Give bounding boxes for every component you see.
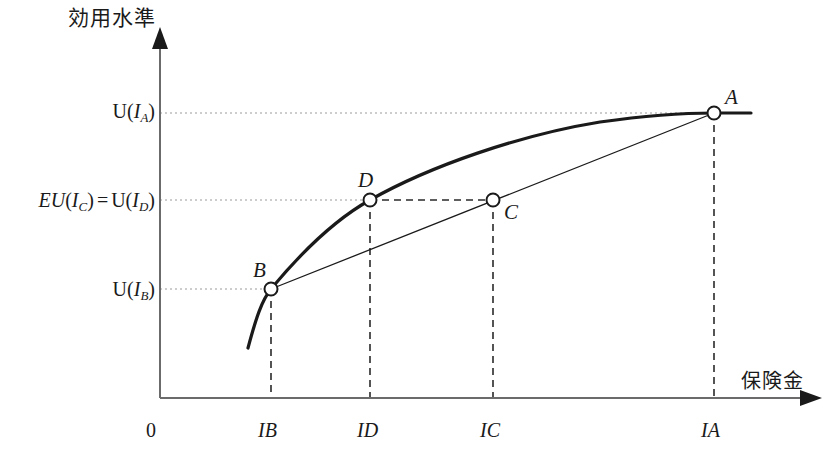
point-marker-b[interactable]: [265, 283, 278, 296]
diagram-canvas: [0, 0, 829, 461]
vertical-guide-lines: [271, 113, 714, 398]
x-axis-title: 保険金: [741, 371, 804, 391]
point-marker-a[interactable]: [708, 107, 721, 120]
y-axis-title: 効用水準: [68, 8, 156, 29]
y-tick-label-eu-ic: EU(IC)=U(ID): [0, 190, 155, 210]
y-tick-label-u-ia: U(IA): [0, 101, 155, 121]
axes: [152, 27, 822, 406]
point-markers: [265, 107, 721, 296]
point-label-a: A: [725, 87, 738, 108]
utility-curve: [248, 113, 751, 348]
horizontal-guide-lines: [160, 113, 714, 289]
utility-diagram-figure: 効用水準 保険金 U(IA) EU(IC)=U(ID) U(IB) 0 IB I…: [0, 0, 829, 461]
point-marker-d[interactable]: [364, 194, 377, 207]
y-tick-label-u-ib: U(IB): [0, 279, 155, 299]
point-label-d: D: [358, 170, 373, 191]
x-tick-label-ib: IB: [258, 420, 277, 440]
x-tick-label-id: ID: [357, 420, 378, 440]
x-tick-label-ia: IA: [701, 420, 720, 440]
point-marker-c[interactable]: [487, 194, 500, 207]
point-label-b: B: [253, 260, 266, 281]
x-tick-label-ic: IC: [480, 420, 500, 440]
point-label-c: C: [504, 202, 518, 223]
y-axis-arrowhead: [152, 27, 168, 49]
x-tick-label-origin: 0: [146, 420, 156, 440]
